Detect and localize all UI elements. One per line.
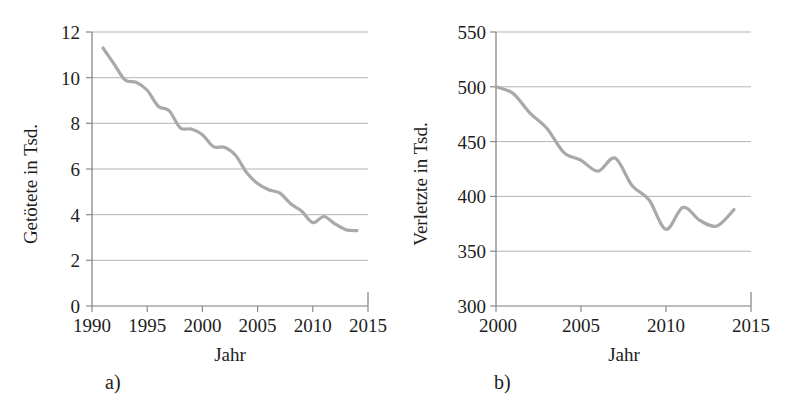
chart-a-xtick-2000: 2000 — [183, 315, 221, 336]
chart-b-x-ticklabels: 2000 2005 2010 2015 — [479, 315, 770, 336]
chart-a-xtick-1990: 1990 — [73, 315, 111, 336]
chart-b-ytick-400: 400 — [458, 186, 487, 207]
panel-a-letter: a) — [105, 371, 121, 394]
chart-a-y-tickmarks — [86, 32, 92, 306]
chart-b-svg: Verletzte in Tsd. — [394, 0, 788, 411]
chart-a-ytick-6: 6 — [71, 159, 81, 180]
chart-b-gridlines — [496, 32, 751, 251]
chart-b-xtick-2000: 2000 — [479, 315, 517, 336]
chart-a-ytick-8: 8 — [71, 113, 81, 134]
chart-b-xtick-2010: 2010 — [647, 315, 685, 336]
chart-a-x-ticklabels: 1990 1995 2000 2005 2010 2015 — [73, 315, 387, 336]
chart-a-xlabel: Jahr — [214, 344, 246, 365]
chart-b-x-tickmarks — [496, 306, 751, 312]
chart-b-data-line — [496, 87, 734, 230]
chart-b-ytick-450: 450 — [458, 132, 487, 153]
chart-a-ytick-2: 2 — [71, 250, 81, 271]
chart-b-ytick-500: 500 — [458, 77, 487, 98]
chart-a-data-line — [103, 48, 357, 231]
chart-a-gridlines — [92, 32, 368, 260]
chart-b-y-tickmarks — [490, 32, 496, 306]
chart-a-xtick-2015: 2015 — [349, 315, 387, 336]
chart-a-ylabel: Getötete in Tsd. — [20, 124, 41, 244]
chart-b-xtick-2005: 2005 — [562, 315, 600, 336]
chart-a-svg: Getötete in Tsd. — [0, 0, 394, 411]
chart-b-y-ticklabels: 550 500 450 400 350 300 — [458, 22, 487, 317]
chart-a-xtick-2005: 2005 — [239, 315, 277, 336]
chart-a-ytick-10: 10 — [61, 68, 80, 89]
chart-a-x-tickmarks — [92, 306, 368, 312]
chart-a-ytick-4: 4 — [71, 205, 81, 226]
chart-a-ytick-0: 0 — [71, 296, 81, 317]
chart-a-xtick-2010: 2010 — [294, 315, 332, 336]
chart-b-ytick-300: 300 — [458, 296, 487, 317]
chart-b-ylabel: Verletzte in Tsd. — [410, 122, 431, 245]
chart-b-ytick-350: 350 — [458, 241, 487, 262]
chart-b-xlabel: Jahr — [608, 344, 640, 365]
chart-a-ytick-12: 12 — [61, 22, 80, 43]
chart-a-xtick-1995: 1995 — [128, 315, 166, 336]
chart-b-ytick-550: 550 — [458, 22, 487, 43]
chart-b-xtick-2015: 2015 — [732, 315, 770, 336]
chart-panel-b: Verletzte in Tsd. — [394, 0, 788, 411]
panel-b-letter: b) — [494, 371, 511, 394]
chart-panel-a: Getötete in Tsd. — [0, 0, 394, 411]
chart-a-y-ticklabels: 12 10 8 6 4 2 0 — [61, 22, 81, 317]
